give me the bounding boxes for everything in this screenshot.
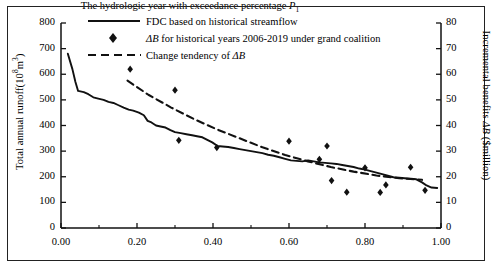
data-marker [344, 189, 350, 196]
data-marker [408, 164, 414, 171]
y-left-tick-700: 700 [21, 42, 55, 53]
y-left-tick-300: 300 [21, 144, 55, 155]
x-tick-0.80: 0.80 [340, 236, 390, 247]
y-left-tick-0: 0 [21, 221, 55, 232]
data-marker [176, 137, 182, 144]
y-right-tick-40: 40 [446, 119, 476, 130]
data-marker [422, 187, 428, 194]
legend-symbols [88, 21, 141, 55]
y-left-tick-500: 500 [21, 93, 55, 104]
y-right-tick-70: 70 [446, 42, 476, 53]
data-marker [324, 142, 330, 149]
y-right-tick-60: 60 [446, 67, 476, 78]
y-right-tick-20: 20 [446, 170, 476, 181]
chart-canvas [0, 0, 494, 274]
legend-diamond-icon [109, 33, 117, 43]
data-marker [329, 177, 335, 184]
x-tick-1.00: 1.00 [416, 236, 466, 247]
x-tick-0.40: 0.40 [188, 236, 238, 247]
data-marker [286, 138, 292, 145]
y-right-tick-80: 80 [446, 16, 476, 27]
y-left-tick-400: 400 [21, 119, 55, 130]
y-right-tick-50: 50 [446, 93, 476, 104]
data-marker [383, 181, 389, 188]
y-right-tick-30: 30 [446, 144, 476, 155]
y-right-tick-10: 10 [446, 195, 476, 206]
y-left-tick-600: 600 [21, 67, 55, 78]
axis-lines [61, 23, 441, 228]
x-tick-0.60: 0.60 [264, 236, 314, 247]
data-series-layer [68, 54, 437, 196]
data-marker [377, 189, 383, 196]
y-left-tick-800: 800 [21, 16, 55, 27]
y-left-tick-200: 200 [21, 170, 55, 181]
figure-container: Total annual runoff(108m3) Incremental b… [0, 0, 494, 274]
y-left-tick-100: 100 [21, 195, 55, 206]
y-right-tick-0: 0 [446, 221, 476, 232]
x-tick-0.00: 0.00 [36, 236, 86, 247]
data-marker [172, 87, 178, 94]
x-tick-0.20: 0.20 [112, 236, 162, 247]
data-marker [127, 66, 133, 73]
series-line-0 [68, 54, 437, 188]
